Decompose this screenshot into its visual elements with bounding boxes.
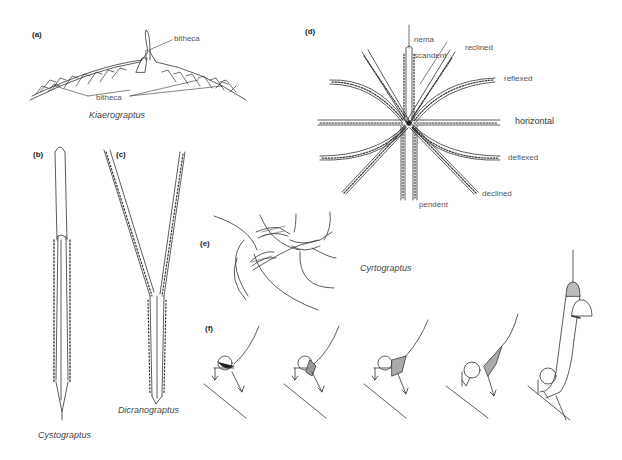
label-bitheca-lower: bitheca [96, 94, 122, 102]
label-scandent: scandent [414, 52, 446, 60]
genus-kiaerograptus: Kiaerograptus [89, 111, 145, 120]
panel-label-d: (d) [305, 28, 315, 36]
label-reclined: reclined [465, 44, 493, 52]
panel-label-c: (c) [116, 151, 126, 159]
panel-label-f: (f) [205, 325, 213, 333]
label-reflexed: reflexed [504, 75, 532, 83]
label-declined: declined [482, 190, 512, 198]
panel-label-b: (b) [33, 151, 43, 159]
figure-artwork [0, 0, 622, 460]
label-bitheca-upper: bitheca [174, 35, 200, 43]
cystograptus-drawing [54, 147, 70, 420]
panel-label-a: (a) [32, 31, 42, 39]
genus-cystograptus: Cystograptus [38, 431, 91, 440]
genus-cyrtograptus: Cyrtograptus [360, 264, 412, 273]
genus-dicranograptus: Dicranograptus [118, 406, 179, 415]
label-deflexed: deflexed [508, 154, 538, 162]
label-pendent: pendent [419, 201, 448, 209]
kiaerograptus-drawing [30, 30, 246, 100]
development-series-drawing [204, 250, 592, 420]
label-nema: nema [414, 36, 434, 44]
graptolite-figure: (a) (b) (c) (d) (e) (f) bitheca bitheca … [0, 0, 622, 460]
label-horizontal: horizontal [515, 117, 554, 126]
cyrtograptus-drawing [214, 212, 336, 310]
dicranograptus-drawing [104, 150, 185, 404]
panel-label-e: (e) [200, 240, 210, 248]
